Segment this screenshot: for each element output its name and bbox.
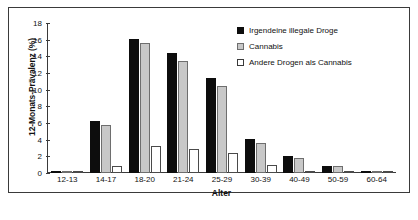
chart-legend: Irgendeine illegale DrogeCannabisAndere …	[237, 26, 352, 67]
chart-frame: 12-Monats-Prävalenz (%) 024681012141618 …	[8, 7, 410, 193]
bar	[73, 171, 83, 173]
bar-group	[87, 23, 126, 173]
bar	[140, 43, 150, 173]
y-tick-0: 0	[46, 173, 50, 174]
bar	[101, 125, 111, 173]
bar	[322, 166, 332, 174]
y-tick-label: 2	[38, 152, 42, 161]
bar-group	[164, 23, 203, 173]
x-tick-label: 14-17	[87, 175, 126, 184]
legend-swatch-white	[237, 59, 244, 66]
x-tick-label: 50-59	[319, 175, 358, 184]
x-axis-title: Alter	[47, 188, 396, 198]
bar	[294, 158, 304, 173]
x-tick-label: 18-20	[125, 175, 164, 184]
y-tick-label: 12	[33, 69, 42, 78]
legend-item: Irgendeine illegale Droge	[237, 26, 352, 35]
y-tick-label: 8	[38, 102, 42, 111]
bar	[333, 166, 343, 173]
bar-group	[203, 23, 242, 173]
bar	[383, 171, 393, 173]
bar-group	[357, 23, 396, 173]
y-tick-label: 4	[38, 135, 42, 144]
chart-figure: 12-Monats-Prävalenz (%) 024681012141618 …	[0, 0, 418, 220]
bar	[305, 171, 315, 174]
bar	[228, 153, 238, 173]
bar	[361, 171, 371, 173]
y-tick-label: 10	[33, 85, 42, 94]
legend-swatch-gray	[237, 43, 244, 50]
bar	[178, 61, 188, 173]
bar	[129, 39, 139, 173]
legend-label: Irgendeine illegale Droge	[249, 26, 338, 35]
legend-label: Cannabis	[249, 42, 283, 51]
legend-item: Cannabis	[237, 42, 352, 51]
x-tick-label: 40-49	[280, 175, 319, 184]
x-axis-ticks: 12-1314-1718-2021-2425-2930-3940-4950-59…	[48, 175, 396, 184]
bar	[372, 171, 382, 173]
x-tick-label: 60-64	[357, 175, 396, 184]
bar	[189, 149, 199, 173]
bar	[283, 156, 293, 173]
bar	[62, 171, 72, 173]
legend-swatch-black	[237, 27, 244, 34]
x-tick-label: 25-29	[203, 175, 242, 184]
x-tick-label: 21-24	[164, 175, 203, 184]
x-tick-label: 30-39	[241, 175, 280, 184]
bar	[151, 146, 161, 173]
y-tick-label: 18	[33, 19, 42, 28]
bar	[90, 121, 100, 174]
y-tick-label: 16	[33, 35, 42, 44]
y-tick-label: 6	[38, 119, 42, 128]
bar	[206, 78, 216, 173]
bar	[217, 86, 227, 174]
bar-group	[125, 23, 164, 173]
bar	[112, 166, 122, 174]
y-tick-label: 14	[33, 52, 42, 61]
bar	[245, 139, 255, 173]
bar	[344, 171, 354, 173]
bar-group	[48, 23, 87, 173]
bar	[267, 165, 277, 173]
bar	[256, 143, 266, 173]
bar	[167, 53, 177, 173]
bar	[51, 171, 61, 174]
y-tick-label: 0	[38, 169, 42, 178]
x-tick-label: 12-13	[48, 175, 87, 184]
legend-label: Andere Drogen als Cannabis	[249, 58, 352, 67]
legend-item: Andere Drogen als Cannabis	[237, 58, 352, 67]
